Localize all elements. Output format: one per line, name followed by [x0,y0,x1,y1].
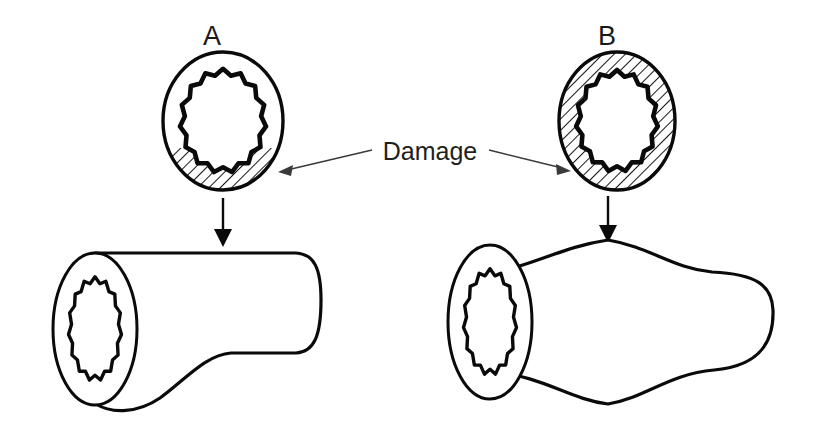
panel-a-vessel [53,253,321,411]
panel-b-vessel [448,240,773,404]
damage-label: Damage [383,137,478,165]
panel-b-cross-section [545,40,695,210]
diagram-canvas: A [0,0,820,431]
panel-b: B [448,21,773,404]
damage-callout: Damage [278,137,571,176]
aneurysm-diagram-figure: A [0,0,820,431]
panel-a-letter: A [203,21,221,51]
panel-a-cross-section [150,40,300,210]
panel-a: A [53,21,321,411]
panel-a-transform-arrow [214,198,232,247]
